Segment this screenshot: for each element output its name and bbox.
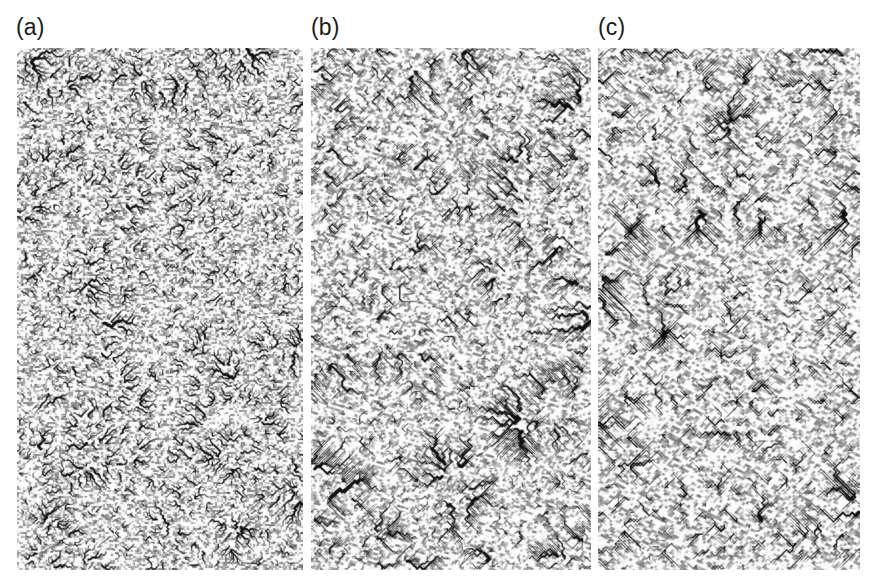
panel-c [598,48,860,570]
drainage-network-raster [598,48,860,570]
panel-a [17,48,303,570]
drainage-network-raster [311,48,591,570]
panel-label-a: (a) [16,16,45,39]
figure-canvas: (a)(b)(c) [0,0,871,587]
panel-label-b: (b) [311,16,340,39]
drainage-network-raster [17,48,303,570]
panel-b [311,48,591,570]
panel-label-c: (c) [598,16,625,39]
